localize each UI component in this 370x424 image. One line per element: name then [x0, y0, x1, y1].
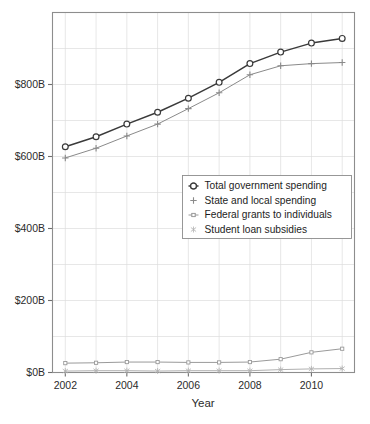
- line-chart: $0B$200B$400B$600B$800B 2002200420062008…: [0, 0, 370, 424]
- marker-circle: [62, 144, 68, 150]
- series-polyline: [65, 349, 342, 363]
- legend-label: Student loan subsidies: [205, 224, 308, 235]
- y-axis-tick-label: $200B: [15, 294, 45, 306]
- marker-circle: [339, 36, 345, 42]
- marker-circle: [124, 121, 130, 127]
- x-axis-tick-label: 2004: [115, 379, 139, 391]
- series-line: [62, 36, 345, 150]
- chart-legend[interactable]: Total government spendingState and local…: [183, 176, 352, 239]
- marker-plus: [124, 133, 130, 139]
- marker-plus: [62, 155, 68, 161]
- legend-label: Federal grants to individuals: [205, 209, 332, 220]
- marker-circle: [216, 79, 222, 85]
- y-axis-tick-label: $0B: [26, 366, 45, 378]
- marker-dot: [125, 360, 128, 363]
- marker-plus: [154, 121, 160, 127]
- marker-dot: [156, 360, 159, 363]
- marker-dot: [341, 347, 344, 350]
- x-axis-title: Year: [191, 397, 214, 409]
- x-axis-tick-label: 2002: [54, 379, 78, 391]
- y-axis-tick-label: $400B: [15, 222, 45, 234]
- series-line: [62, 59, 345, 161]
- marker-dot: [279, 358, 282, 361]
- y-axis-tick-label: $800B: [15, 78, 45, 90]
- legend-label: State and local spending: [205, 195, 317, 206]
- series-line: [64, 347, 344, 365]
- marker-dot: [310, 351, 313, 354]
- marker-plus: [185, 105, 191, 111]
- marker-circle: [247, 61, 253, 67]
- x-axis-tick-label: 2006: [177, 379, 201, 391]
- marker-dot: [218, 361, 221, 364]
- marker-plus: [247, 72, 253, 78]
- marker-circle: [278, 49, 284, 55]
- marker-circle: [191, 183, 197, 189]
- legend-entry[interactable]: State and local spending: [190, 195, 316, 206]
- marker-plus: [339, 59, 345, 65]
- chart-container: $0B$200B$400B$600B$800B 2002200420062008…: [0, 0, 370, 424]
- legend-entry[interactable]: Total government spending: [189, 180, 328, 191]
- marker-dot: [192, 213, 195, 216]
- x-axis-tick-label: 2010: [300, 379, 324, 391]
- legend-entry[interactable]: Student loan subsidies: [191, 224, 307, 235]
- marker-circle: [185, 95, 191, 101]
- marker-plus: [308, 60, 314, 66]
- legend-entry[interactable]: Federal grants to individuals: [189, 209, 332, 220]
- marker-plus: [216, 90, 222, 96]
- marker-circle: [93, 134, 99, 140]
- marker-circle: [155, 109, 161, 115]
- series-polyline: [65, 63, 342, 158]
- marker-dot: [94, 361, 97, 364]
- y-axis-tick-label: $600B: [15, 150, 45, 162]
- marker-circle: [309, 40, 315, 46]
- series-polyline: [65, 369, 342, 372]
- y-axis-labels: $0B$200B$400B$600B$800B: [15, 78, 45, 378]
- x-axis-tick-label: 2008: [238, 379, 262, 391]
- marker-dot: [187, 361, 190, 364]
- marker-dot: [64, 362, 67, 365]
- marker-dot: [248, 360, 251, 363]
- marker-plus: [93, 145, 99, 151]
- legend-label: Total government spending: [205, 180, 328, 191]
- x-axis-labels: 20022004200620082010: [54, 379, 324, 391]
- series-polyline: [65, 38, 342, 146]
- marker-plus: [277, 63, 283, 69]
